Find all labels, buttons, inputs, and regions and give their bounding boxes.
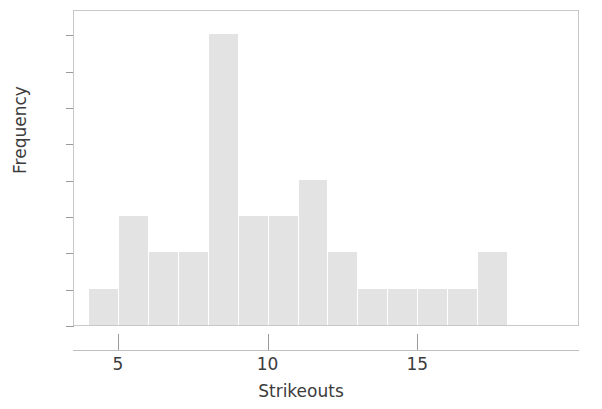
bars-group: [74, 11, 578, 325]
histogram-bar: [358, 289, 388, 325]
x-axis-tick: [417, 334, 418, 350]
histogram-bar: [388, 289, 418, 325]
histogram-bar: [209, 34, 239, 325]
histogram-bar: [179, 252, 209, 325]
histogram-bar: [448, 289, 478, 325]
y-axis-title: Frequency: [10, 55, 30, 205]
x-axis-tick-label: 15: [397, 356, 437, 373]
histogram-bar: [328, 252, 358, 325]
histogram-bar: [299, 180, 329, 325]
histogram-bar: [418, 289, 448, 325]
histogram-bar: [239, 216, 269, 325]
x-axis-line: [73, 350, 579, 351]
histogram-bar: [478, 252, 508, 325]
histogram-figure: 012345678 51015 Strikeouts Frequency: [0, 0, 602, 409]
histogram-bar: [149, 252, 179, 325]
x-axis-tick-label: 5: [98, 356, 138, 373]
histogram-bar: [119, 216, 149, 325]
histogram-bar: [269, 216, 299, 325]
x-axis-title: Strikeouts: [0, 381, 602, 401]
x-axis-tick: [118, 334, 119, 350]
histogram-bar: [89, 289, 119, 325]
x-axis-tick-label: 10: [248, 356, 288, 373]
plot-area: [73, 10, 579, 326]
x-axis-tick: [268, 334, 269, 350]
y-axis-tick: [66, 326, 74, 327]
